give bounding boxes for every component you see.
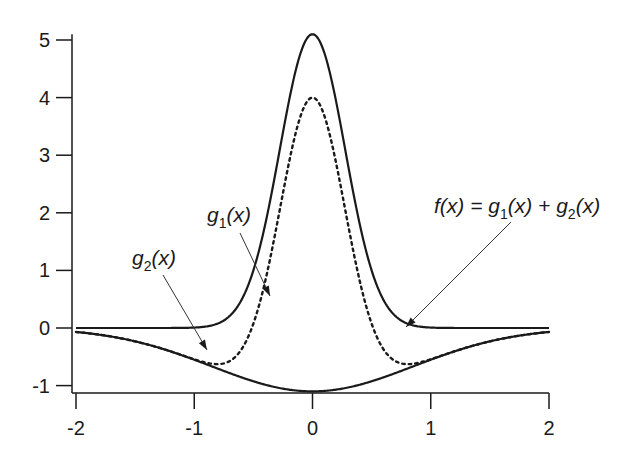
y-tick-label: 3 bbox=[39, 144, 50, 166]
x-tick-label: 2 bbox=[543, 417, 554, 439]
arrow-g1 bbox=[240, 233, 270, 296]
annotation-arrows bbox=[163, 222, 511, 350]
chart-canvas: -1012345-2-1012 g1(x) g2(x) f(x) = g1(x)… bbox=[0, 0, 641, 468]
x-tick-label: 0 bbox=[307, 417, 318, 439]
label-f: f(x) = g1(x) + g2(x) bbox=[434, 194, 600, 222]
y-tick-label: 0 bbox=[39, 317, 50, 339]
y-tick-label: 2 bbox=[39, 202, 50, 224]
axes: -1012345-2-1012 bbox=[32, 29, 554, 439]
x-tick-label: -2 bbox=[67, 417, 85, 439]
arrow-g2 bbox=[163, 275, 207, 350]
label-g1: g1(x) bbox=[207, 203, 251, 231]
series-g2 bbox=[76, 332, 549, 391]
series-g1 bbox=[76, 34, 549, 328]
arrow-g2-head bbox=[199, 340, 207, 350]
x-tick-label: -1 bbox=[185, 417, 203, 439]
y-tick-label: -1 bbox=[32, 375, 50, 397]
y-tick-label: 5 bbox=[39, 29, 50, 51]
x-tick-label: 1 bbox=[425, 417, 436, 439]
series-f bbox=[76, 98, 549, 365]
arrow-f bbox=[406, 222, 511, 327]
y-tick-label: 4 bbox=[39, 87, 50, 109]
label-g2: g2(x) bbox=[132, 246, 176, 274]
y-tick-label: 1 bbox=[39, 259, 50, 281]
